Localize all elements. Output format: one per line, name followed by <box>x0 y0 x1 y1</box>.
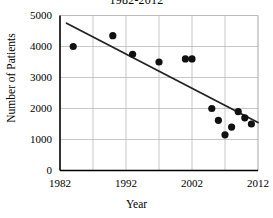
data-points <box>70 32 255 138</box>
chart-figure: 1982-2012 Number of Patients Year 5000 4… <box>0 0 273 218</box>
gridlines <box>60 16 258 171</box>
trend-line <box>67 23 258 122</box>
plot-area <box>0 0 273 218</box>
